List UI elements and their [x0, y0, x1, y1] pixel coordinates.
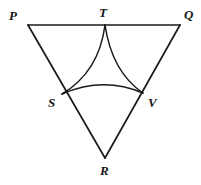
segment-qr	[105, 25, 180, 158]
curvilinear-triangle	[62, 25, 143, 94]
vertex-label-r: R	[100, 164, 109, 177]
triangle-outline	[28, 25, 180, 158]
geometry-figure: P T Q S V R	[0, 0, 201, 185]
vertex-label-q: Q	[184, 8, 193, 21]
geometry-canvas	[0, 0, 201, 185]
arc-ts	[62, 25, 105, 94]
vertex-label-v: V	[148, 96, 157, 109]
vertex-label-p: P	[9, 9, 17, 22]
vertex-label-t: T	[99, 6, 107, 19]
arc-tv	[105, 25, 143, 93]
vertex-label-s: S	[48, 96, 55, 109]
